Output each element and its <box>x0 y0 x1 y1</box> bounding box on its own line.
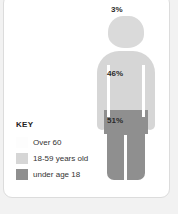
legend: KEY Over 60 18-59 years old under age 18 <box>16 120 112 183</box>
pictogram-head-segment <box>108 16 144 48</box>
legend-label-over-60: Over 60 <box>33 138 61 147</box>
legend-item-18-59: 18-59 years old <box>16 151 112 165</box>
legend-label-under-18: under age 18 <box>33 170 80 179</box>
legend-swatch-under-18 <box>16 169 28 180</box>
headline-text: THE POPULATION IS YOUNG <box>13 0 153 1</box>
right-arm-gap <box>142 65 145 117</box>
torso-percentage-label: 46% <box>107 69 123 78</box>
leg-gap <box>124 135 127 181</box>
pictogram-torso-segment <box>97 51 155 113</box>
legend-swatch-over-60 <box>16 137 28 148</box>
legend-item-over-60: Over 60 <box>16 135 112 149</box>
legend-swatch-18-59 <box>16 153 28 164</box>
legend-label-18-59: 18-59 years old <box>33 154 88 163</box>
head-percentage-label: 3% <box>111 5 123 14</box>
infographic-card: THE POPULATION IS YOUNG 3% 46% 51% KEY O… <box>3 0 170 198</box>
legend-item-under-18: under age 18 <box>16 167 112 181</box>
legend-title: KEY <box>16 120 112 129</box>
